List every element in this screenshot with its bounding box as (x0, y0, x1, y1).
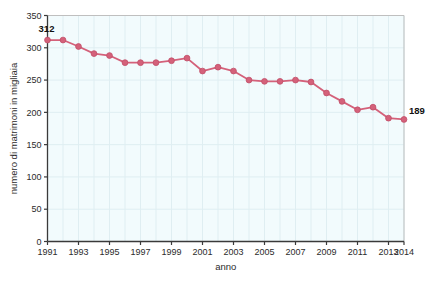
x-tick-label: 1993 (68, 247, 88, 257)
plot-area-background (48, 16, 405, 242)
y-axis-ticks: 050100150200250300350 (26, 11, 47, 247)
data-point (370, 104, 376, 110)
data-point (355, 107, 361, 113)
data-point (138, 60, 144, 66)
data-point (401, 117, 407, 123)
data-point (45, 37, 51, 43)
y-tick-label: 150 (26, 140, 41, 150)
y-tick-label: 200 (26, 108, 41, 118)
data-point (184, 55, 190, 61)
point-value-label: 189 (409, 105, 425, 116)
x-tick-label: 2011 (348, 247, 367, 257)
y-tick-label: 350 (26, 11, 41, 21)
data-point (386, 115, 392, 121)
x-tick-label: 2009 (316, 247, 336, 257)
y-tick-label: 0 (36, 237, 41, 247)
data-point (153, 60, 159, 66)
data-point (231, 68, 237, 74)
x-tick-label: 2014 (394, 247, 414, 257)
data-point (76, 44, 82, 50)
data-point (293, 77, 299, 83)
x-tick-label: 2005 (254, 247, 274, 257)
data-point (324, 90, 330, 96)
chart-canvas: 0501001502002503003501991199319951997199… (0, 0, 430, 282)
data-point (200, 68, 206, 74)
x-axis-ticks: 1991199319951997199920012003200520072009… (37, 242, 414, 258)
data-point (246, 77, 252, 83)
y-axis-title: numero di matrimoni in migliaia (8, 62, 19, 194)
data-point (277, 78, 283, 84)
y-tick-label: 300 (26, 43, 41, 53)
x-tick-label: 2003 (223, 247, 243, 257)
x-tick-label: 1999 (161, 247, 181, 257)
x-tick-label: 1997 (130, 247, 150, 257)
data-point (169, 58, 175, 64)
x-axis-title: anno (215, 261, 236, 272)
data-point (308, 79, 314, 85)
y-tick-label: 100 (26, 172, 41, 182)
x-tick-label: 2001 (192, 247, 212, 257)
x-tick-label: 1991 (37, 247, 57, 257)
x-tick-label: 1995 (99, 247, 119, 257)
data-point (339, 98, 345, 104)
data-point (91, 51, 97, 57)
point-value-label: 312 (39, 23, 55, 34)
x-tick-label: 2007 (285, 247, 305, 257)
y-tick-label: 250 (26, 75, 41, 85)
y-tick-label: 50 (31, 204, 41, 214)
data-point (122, 60, 128, 66)
data-point (60, 37, 66, 43)
data-point (215, 64, 221, 70)
data-point (107, 53, 113, 59)
line-chart: 0501001502002503003501991199319951997199… (0, 0, 430, 282)
data-point (262, 78, 268, 84)
